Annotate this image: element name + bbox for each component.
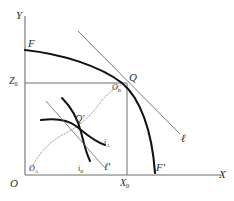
x-axis-label: X (219, 169, 226, 180)
indifference-b-label: iB (78, 165, 84, 173)
y-tick-z0: Z0 (9, 76, 18, 86)
box-corner-text: O (112, 83, 118, 92)
y-tick-z0-text: Z (9, 75, 15, 86)
box-corner-label-ob: OB (112, 84, 121, 92)
price-line-inner (46, 101, 104, 167)
economics-diagram: Y X O Z0 X0 F F' Q ℓ OB OA Q' iA iB ℓ' (0, 0, 234, 201)
indifference-a-label: iA (104, 139, 110, 147)
contract-curve (30, 85, 121, 171)
y-tick-z0-sub: 0 (15, 80, 18, 87)
frontier-end-text: F (156, 161, 163, 173)
origin-label: O (10, 178, 18, 189)
price-line-outer-label: ℓ (181, 133, 186, 144)
box-corner-sub: B (118, 88, 121, 93)
production-possibility-frontier (25, 50, 155, 173)
indifference-b-sub: B (80, 169, 83, 174)
indifference-curve-b (62, 98, 90, 161)
y-axis-label: Y (16, 10, 22, 21)
frontier-end-prime: ' (163, 161, 165, 173)
inset-equilibrium-prime: ' (82, 113, 84, 124)
price-line-inner-label: ℓ' (104, 162, 111, 172)
indifference-a-sub: A (106, 143, 110, 148)
x-tick-x0: X0 (120, 178, 129, 188)
price-line-inner-prime: ' (108, 161, 111, 172)
x-tick-x0-sub: 0 (126, 182, 129, 189)
inset-origin-text: O (29, 164, 35, 173)
tangency-point-label-q: Q (129, 72, 137, 83)
inset-equilibrium-label-q-prime: Q' (75, 114, 84, 124)
inset-origin-label-oa: OA (29, 165, 38, 173)
inset-origin-sub: A (35, 169, 39, 174)
frontier-end-label-f-prime: F' (156, 162, 165, 173)
frontier-start-label-f: F (28, 38, 35, 49)
